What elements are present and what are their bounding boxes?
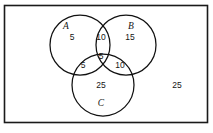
region-count-c-only: 25: [96, 80, 106, 90]
venn-diagram-screenshot: A B C 5 15 10 5 10 5 25 25: [0, 0, 213, 133]
set-label-a: A: [62, 21, 69, 31]
venn-diagram-canvas: A B C 5 15 10 5 10 5 25 25: [0, 0, 213, 133]
region-count-outside: 25: [172, 80, 182, 90]
region-count-a-only: 5: [70, 32, 75, 42]
region-count-b-only: 15: [125, 32, 135, 42]
venn-diagram-stage: A B C 5 15 10 5 10 5 25 25: [0, 0, 213, 133]
region-count-a-and-b: 10: [96, 32, 106, 42]
region-count-a-and-c: 5: [81, 60, 86, 70]
region-count-a-b-c: 5: [99, 51, 104, 61]
region-count-b-and-c: 10: [115, 60, 125, 70]
set-label-b: B: [128, 21, 134, 31]
set-label-c: C: [98, 98, 105, 108]
